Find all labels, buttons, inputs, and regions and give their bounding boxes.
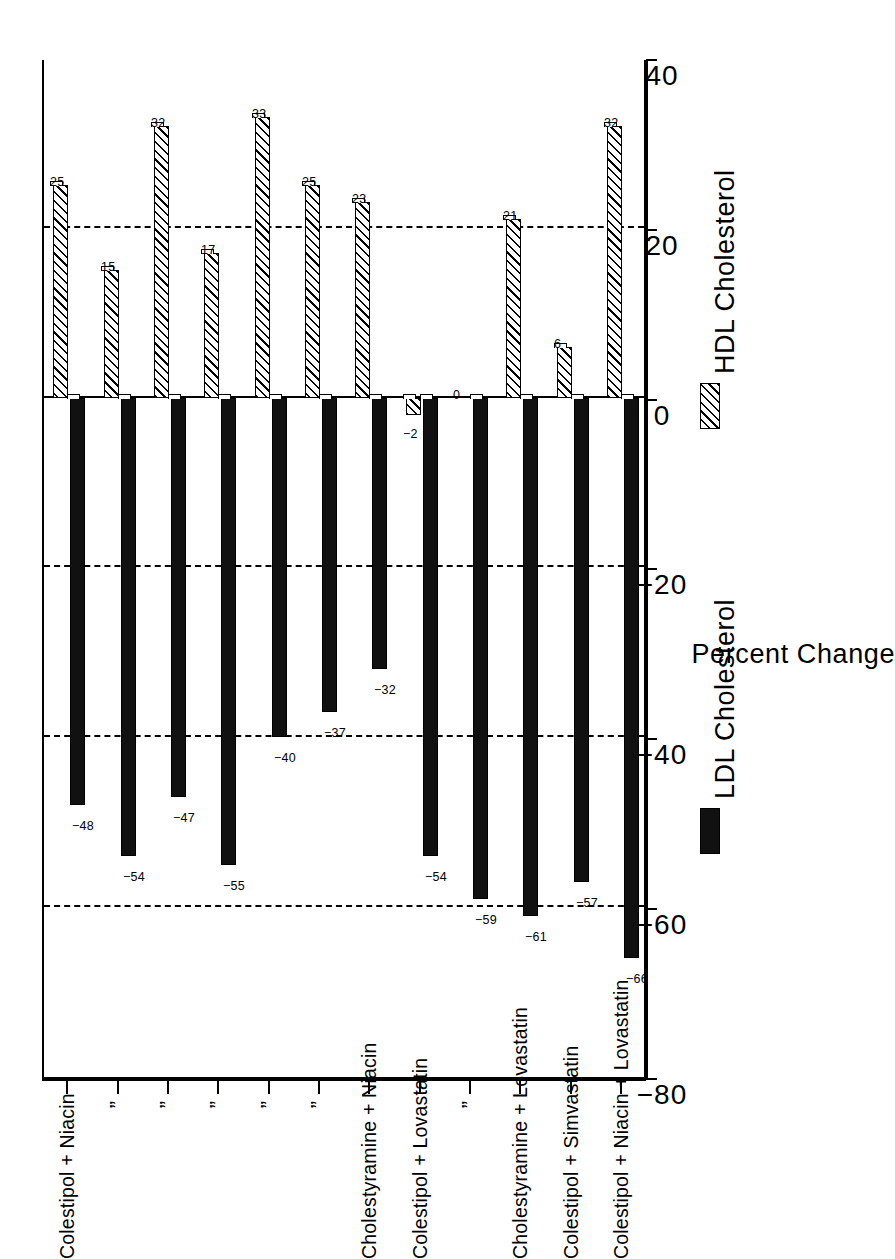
category-label: ” (205, 1101, 231, 1259)
category-label: Cholestyramine + Lovastatin (509, 1101, 532, 1259)
category-label: ” (457, 1101, 483, 1259)
legend-swatch-ldl (700, 808, 720, 854)
legend-label-ldl: LDL Cholesterol (710, 599, 741, 799)
category-label: Colestipol + Niacin + Lovastatin (609, 1101, 632, 1259)
legend-swatch-hdl (700, 383, 720, 429)
legend-label-hdl: HDL Cholesterol (710, 169, 741, 374)
category-label: ” (105, 1101, 131, 1259)
category-label: Colestipol + Simvastatin (559, 1101, 582, 1259)
category-label: ” (306, 1101, 332, 1259)
category-label: Colestipol + Lovastatin (408, 1101, 431, 1259)
category-label: Colestipol + Niacin (56, 1101, 79, 1259)
category-label: Cholestyramine + Niacin (358, 1101, 381, 1259)
category-label: ” (155, 1101, 181, 1259)
category-label: ” (256, 1101, 282, 1259)
